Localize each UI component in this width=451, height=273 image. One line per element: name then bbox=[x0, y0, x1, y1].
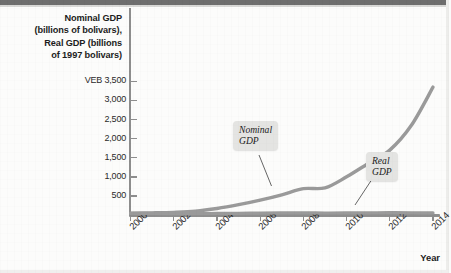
leader-line-real-gdp bbox=[355, 180, 372, 205]
annotation-real-gdp-line-1: Real bbox=[372, 155, 392, 166]
annotation-real-gdp-line-2: GDP bbox=[372, 166, 392, 177]
series-line-real-gdp bbox=[131, 213, 433, 214]
annotation-nominal-gdp: Nominal GDP bbox=[233, 121, 278, 150]
annotation-nominal-gdp-line-2: GDP bbox=[239, 135, 272, 146]
x-axis-title: Year bbox=[420, 252, 440, 263]
annotation-nominal-gdp-line-1: Nominal bbox=[239, 124, 272, 135]
leader-line-nominal-gdp bbox=[259, 155, 272, 186]
series-line-nominal-gdp bbox=[131, 87, 433, 213]
annotation-real-gdp: Real GDP bbox=[366, 152, 398, 181]
